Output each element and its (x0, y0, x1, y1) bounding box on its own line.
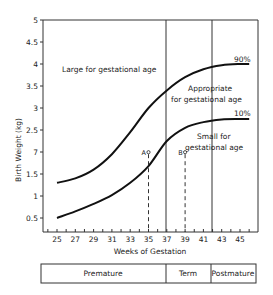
band-term: Term (178, 269, 197, 278)
band-postmature: Postmature (212, 269, 255, 278)
label-appropriate-2: for gestational age (171, 95, 242, 104)
marker-a-point (147, 151, 150, 154)
y-tick-label: 2.5 (26, 126, 38, 135)
period-bands: Premature Term Postmature (41, 264, 256, 283)
x-tick-label: 43 (217, 235, 227, 244)
markers: AB (142, 149, 187, 232)
x-tick-label: 33 (125, 235, 135, 244)
marker-b-label: B (178, 149, 182, 157)
x-tick-label: 31 (107, 235, 117, 244)
y-tick-label: 3 (33, 104, 38, 113)
label-large: Large for gestational age (62, 65, 157, 74)
plot-frame (43, 20, 258, 232)
x-tick-label: 29 (89, 235, 99, 244)
y-tick-label: 5 (33, 16, 38, 25)
growth-chart: 54.543.532.571.510.5 2527293133353739414… (0, 0, 273, 295)
x-tick-label: 37 (162, 235, 172, 244)
label-small-2: gestational age (185, 143, 244, 152)
x-tick-label: 41 (199, 235, 209, 244)
band-premature: Premature (83, 269, 122, 278)
y-tick-label: 7 (33, 148, 38, 157)
y-tick-label: 0.5 (26, 214, 38, 223)
x-tick-label: 27 (71, 235, 81, 244)
y-tick-label: 4 (33, 60, 38, 69)
label-10-percent: 10% (234, 109, 251, 118)
y-axis-title: Birth Weight (kg) (14, 118, 23, 182)
y-tick-label: 4.5 (26, 38, 38, 47)
x-tick-label: 35 (144, 235, 154, 244)
label-appropriate-1: Appropriate (188, 84, 233, 93)
label-90-percent: 90% (234, 55, 251, 64)
label-small-1: Small for (197, 132, 231, 141)
percentile-90-curve (57, 64, 249, 183)
x-tick-label: 45 (235, 235, 245, 244)
y-tick-label: 1 (33, 192, 38, 201)
marker-a-label: A (142, 149, 147, 157)
y-axis-ticks: 54.543.532.571.510.5 (26, 16, 43, 223)
x-tick-label: 25 (52, 235, 62, 244)
x-tick-label: 39 (180, 235, 190, 244)
x-axis-title: Weeks of Gestation (114, 247, 187, 256)
y-tick-label: 3.5 (26, 82, 38, 91)
y-tick-label: 1.5 (26, 170, 38, 179)
